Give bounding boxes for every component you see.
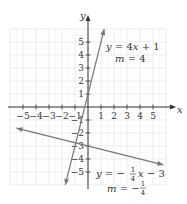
svg-text:−3: −3: [42, 111, 56, 121]
svg-text:m = −: m = −: [107, 183, 140, 194]
svg-text:4: 4: [137, 111, 143, 121]
svg-text:1: 1: [141, 180, 145, 188]
svg-text:1: 1: [98, 111, 104, 121]
svg-text:4: 4: [78, 50, 84, 60]
svg-text:4: 4: [131, 175, 136, 183]
svg-text:3: 3: [78, 63, 84, 73]
line1-equation: y = 4x + 1: [105, 41, 160, 52]
x-axis-label: x: [177, 104, 183, 115]
svg-text:x − 3: x − 3: [138, 168, 165, 179]
coordinate-plane: −5−4−3−2−112345−5−4−3−2−112345 y x y = 4…: [0, 0, 187, 204]
svg-text:5: 5: [150, 111, 156, 121]
svg-text:1: 1: [78, 89, 84, 99]
svg-text:2: 2: [78, 76, 84, 86]
svg-text:−4: −4: [29, 111, 43, 121]
svg-text:3: 3: [124, 111, 130, 121]
svg-text:2: 2: [111, 111, 117, 121]
svg-text:5: 5: [78, 37, 84, 47]
line2-slope: m = − 1 4: [107, 180, 146, 197]
svg-text:−2: −2: [55, 111, 68, 121]
svg-text:m = 4: m = 4: [115, 53, 146, 64]
svg-text:y = 4x + 1: y = 4x + 1: [105, 41, 160, 52]
y-axis-label: y: [79, 10, 86, 21]
line2-equation: y = − 1 4 x − 3: [95, 166, 165, 183]
svg-text:1: 1: [131, 166, 135, 174]
line1-slope: m = 4: [115, 53, 146, 64]
svg-text:y = −: y = −: [95, 168, 125, 179]
svg-text:−5: −5: [16, 111, 30, 121]
svg-text:4: 4: [141, 189, 146, 197]
svg-text:−5: −5: [71, 167, 85, 177]
